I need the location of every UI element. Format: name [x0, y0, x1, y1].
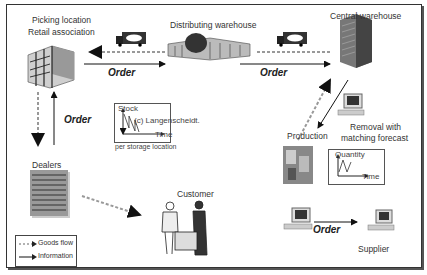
time-axis-label: Time [362, 172, 379, 181]
retail-association-label: Retail association [28, 27, 95, 37]
dealers-list-icon [30, 170, 70, 218]
dealers-label: Dealers [32, 160, 61, 170]
production-label: Production [287, 131, 328, 141]
supplier-label: Supplier [358, 244, 389, 254]
order-label: Order [108, 67, 135, 78]
quantity-chart: Quantity Time [328, 149, 385, 185]
time-axis-label: Time [155, 130, 172, 139]
skyscraper-icon [340, 14, 372, 68]
truck-icon [116, 32, 146, 47]
legend-information: Information [38, 252, 73, 259]
customer-label: Customer [177, 189, 214, 199]
removal-label-line1: Removal with [350, 122, 401, 132]
picking-location-label: Picking location [32, 15, 91, 25]
watermark: (c) Langenscheidt. [134, 116, 200, 125]
legend-goods-flow: Goods flow [38, 239, 73, 246]
distributing-warehouse-label: Distributing warehouse [170, 20, 256, 30]
quantity-axis-label: Quantity [335, 150, 365, 159]
computer-icon [368, 210, 394, 230]
removal-label-line2: matching forecast [341, 133, 408, 143]
stock-chart-caption: per storage location [115, 143, 176, 150]
order-label: Order [260, 67, 287, 78]
truck-icon [277, 32, 307, 47]
production-icon [283, 146, 313, 184]
computer-icon [338, 94, 364, 115]
stock-chart: Stock (c) Langenscheidt. Time [114, 103, 171, 143]
warehouse-icon [168, 33, 250, 60]
order-label: Order [313, 224, 340, 235]
order-label: Order [64, 114, 91, 125]
central-warehouse-label: Central warehouse [330, 11, 401, 21]
legend: Goods flow Information [15, 235, 77, 267]
customer-icon [162, 201, 207, 255]
stock-axis-label: Stock [118, 104, 138, 113]
computer-icon [284, 208, 312, 229]
office-building-icon [28, 46, 74, 88]
